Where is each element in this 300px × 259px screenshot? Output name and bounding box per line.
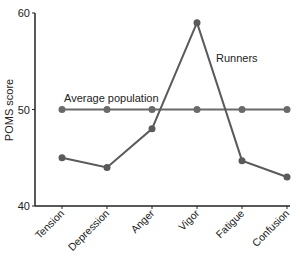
x-ticks: TensionDepressionAngerVigorFatigueConfus… [32,206,291,253]
data-point [149,106,156,113]
y-tick-label: 60 [18,7,30,19]
data-point [104,164,111,171]
x-tick-label: Tension [32,207,66,241]
data-point [59,154,66,161]
data-point [239,157,246,164]
x-tick-label: Anger [128,207,157,236]
data-point [59,106,66,113]
y-tick-label: 40 [18,200,30,212]
data-point [194,19,201,26]
data-point [104,106,111,113]
x-tick-label: Vigor [176,207,202,233]
data-point [284,174,291,181]
data-point [194,106,201,113]
runners-annotation: Runners [216,52,258,64]
average-population-annotation: Average population [64,92,159,104]
y-ticks: 405060 [18,7,35,212]
data-point [284,106,291,113]
x-tick-label: Fatigue [213,207,246,240]
x-tick-label: Depression [65,207,111,253]
data-point [149,125,156,132]
data-point [239,106,246,113]
y-axis-label: POMS score [3,79,15,141]
x-tick-label: Confusion [249,207,291,249]
line-chart: 405060 TensionDepressionAngerVigorFatigu… [0,0,300,259]
y-tick-label: 50 [18,104,30,116]
